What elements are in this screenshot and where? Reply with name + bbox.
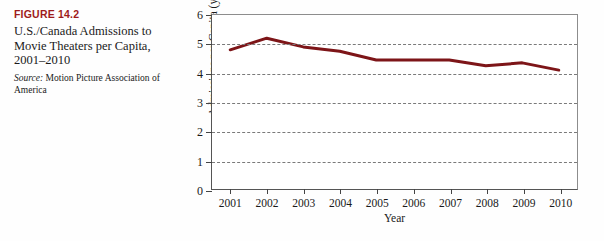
gridline [212, 162, 577, 163]
x-axis-tick [377, 189, 378, 194]
figure-number: FIGURE 14.2 [14, 8, 174, 20]
x-axis-tick-label: 2006 [402, 197, 425, 209]
x-axis-tick-label: 2009 [512, 197, 535, 209]
y-axis-tick-label: 6 [197, 8, 203, 23]
x-axis-tick-label: 2007 [439, 197, 462, 209]
x-axis-title: Year [211, 212, 578, 224]
y-axis-tick-label: 0 [197, 184, 203, 199]
y-axis-tick [206, 74, 212, 75]
y-axis-tick [206, 132, 212, 133]
y-axis-tick [206, 191, 212, 192]
gridline [212, 103, 577, 104]
y-axis-tick-label: 1 [197, 154, 203, 169]
x-axis-tick [267, 189, 268, 194]
x-axis-tick-label: 2005 [366, 197, 389, 209]
plot-area: 0123456200120022003200420052006200720082… [211, 14, 578, 190]
line-series [212, 15, 577, 189]
x-axis-tick-label: 2003 [292, 197, 315, 209]
figure-caption: FIGURE 14.2 U.S./Canada Admissions to Mo… [14, 8, 174, 96]
figure-page: FIGURE 14.2 U.S./Canada Admissions to Mo… [0, 0, 604, 241]
y-axis-tick [206, 103, 212, 104]
x-axis-tick-label: 2004 [329, 197, 352, 209]
x-axis-tick [304, 189, 305, 194]
y-axis-tick [206, 15, 212, 16]
y-axis-tick [206, 162, 212, 163]
x-axis-tick-label: 2001 [219, 197, 242, 209]
x-axis-tick [340, 189, 341, 194]
y-axis-tick [206, 44, 212, 45]
figure-title: U.S./Canada Admissions to Movie Theaters… [14, 24, 174, 68]
x-axis-tick [524, 189, 525, 194]
x-axis-tick-label: 2010 [549, 197, 572, 209]
y-axis-tick-label: 2 [197, 125, 203, 140]
gridline [212, 132, 577, 133]
x-axis-tick [561, 189, 562, 194]
source-label: Source: [14, 73, 43, 83]
x-axis-tick-label: 2008 [476, 197, 499, 209]
y-axis-tick-label: 4 [197, 66, 203, 81]
x-axis-tick [487, 189, 488, 194]
chart: Admissions per Capita (yearly) 012345620… [178, 0, 598, 241]
x-axis-tick [451, 189, 452, 194]
y-axis-tick-label: 5 [197, 37, 203, 52]
y-axis-tick-label: 3 [197, 96, 203, 111]
figure-source: Source: Motion Picture Association of Am… [14, 72, 174, 96]
x-axis-tick [230, 189, 231, 194]
gridline [212, 44, 577, 45]
x-axis-tick [414, 189, 415, 194]
x-axis-tick-label: 2002 [256, 197, 279, 209]
gridline [212, 74, 577, 75]
